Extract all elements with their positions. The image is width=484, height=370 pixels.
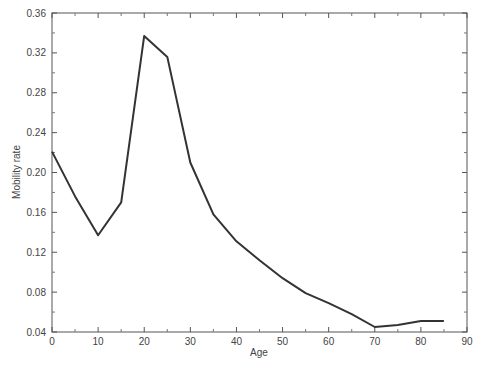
x-axis-label: Age — [250, 347, 268, 358]
y-tick-label: 0.04 — [27, 327, 47, 338]
x-tick-label: 40 — [231, 336, 243, 347]
y-tick-label: 0.28 — [27, 87, 47, 98]
series-line — [52, 36, 444, 327]
y-tick-label: 0.16 — [27, 207, 47, 218]
y-tick-label: 0.24 — [27, 127, 47, 138]
x-tick-label: 30 — [185, 336, 197, 347]
y-tick-label: 0.08 — [27, 287, 47, 298]
y-tick-label: 0.32 — [27, 47, 47, 58]
plot-frame — [52, 13, 467, 332]
x-tick-label: 90 — [461, 336, 473, 347]
x-tick-label: 20 — [139, 336, 151, 347]
y-axis: 0.040.080.120.160.200.240.280.320.36 — [27, 8, 467, 338]
x-tick-label: 50 — [277, 336, 289, 347]
y-tick-label: 0.36 — [27, 8, 47, 19]
line-chart: 0.040.080.120.160.200.240.280.320.36 010… — [0, 0, 484, 370]
x-tick-label: 60 — [323, 336, 335, 347]
y-tick-label: 0.12 — [27, 247, 47, 258]
x-axis: 0102030405060708090 — [49, 13, 473, 347]
x-tick-label: 70 — [369, 336, 381, 347]
y-tick-label: 0.20 — [27, 167, 47, 178]
x-tick-label: 80 — [415, 336, 427, 347]
x-tick-label: 0 — [49, 336, 55, 347]
y-axis-label: Mobility rate — [11, 145, 22, 199]
x-tick-label: 10 — [93, 336, 105, 347]
data-series — [52, 36, 444, 327]
